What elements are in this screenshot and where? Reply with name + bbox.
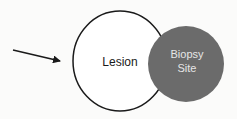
- pointer-arrow: [13, 50, 60, 61]
- biopsy-label-line1: Biopsy: [170, 48, 204, 60]
- lesion-biopsy-diagram: Lesion Biopsy Site: [0, 0, 237, 119]
- lesion-label: Lesion: [102, 55, 137, 69]
- biopsy-label-line2: Site: [178, 62, 197, 74]
